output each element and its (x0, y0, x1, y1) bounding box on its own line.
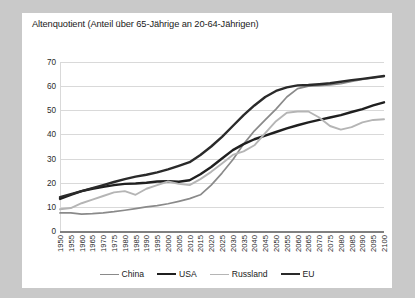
x-axis-line (60, 231, 384, 233)
x-axis-tick-label: 1985 (131, 235, 140, 252)
x-axis-tick-label: 2020 (207, 235, 216, 252)
x-axis-tick-label: 1970 (99, 235, 108, 252)
x-axis-tick-label: 1965 (88, 235, 97, 252)
y-axis-tick-label: 30 (47, 154, 56, 163)
x-axis-tick-label: 2095 (369, 235, 378, 252)
y-axis-tick-label: 10 (47, 202, 56, 211)
y-axis-tick-label: 70 (47, 58, 56, 67)
y-axis-tick-label: 40 (47, 130, 56, 139)
y-axis-tick-label: 20 (47, 178, 56, 187)
y-axis-tick-label: 50 (47, 106, 56, 115)
x-axis-tick-label: 1950 (56, 235, 65, 252)
legend-swatch (157, 273, 176, 275)
series-lines (60, 62, 384, 231)
x-axis-tick-label: 2090 (358, 235, 367, 252)
x-axis-tick-label: 2070 (315, 235, 324, 252)
x-axis-tick-label: 1980 (120, 235, 129, 252)
x-axis-tick-label: 2015 (196, 235, 205, 252)
chart-legend: ChinaUSARusslandEU (22, 269, 392, 279)
x-axis-tick-label: 2005 (174, 235, 183, 252)
x-axis-tick-label: 1955 (66, 235, 75, 252)
chart-card: Altenquotient (Anteil über 65-Jährige an… (22, 13, 392, 288)
screenshot-root: Altenquotient (Anteil über 65-Jährige an… (0, 0, 415, 298)
legend-label: Russland (232, 269, 268, 279)
legend-item-usa[interactable]: USA (157, 269, 197, 279)
legend-item-china[interactable]: China (100, 269, 144, 279)
chart-title: Altenquotient (Anteil über 65-Jährige an… (32, 19, 258, 29)
x-axis-tick-label: 1960 (77, 235, 86, 252)
series-line-eu (60, 76, 384, 197)
x-axis-tick-label: 2045 (261, 235, 270, 252)
legend-swatch (100, 274, 119, 275)
x-axis-tick-label: 2000 (164, 235, 173, 252)
legend-label: USA (179, 269, 197, 279)
plot-area: 010203040506070 195019551960196519701975… (60, 62, 384, 231)
x-axis-tick-label: 1995 (153, 235, 162, 252)
legend-swatch (281, 273, 300, 275)
series-line-russland (60, 111, 384, 209)
x-axis-tick-label: 1975 (110, 235, 119, 252)
legend-swatch (210, 274, 229, 275)
x-axis-tick-label: 2080 (336, 235, 345, 252)
legend-label: EU (303, 269, 315, 279)
x-axis-tick-label: 2010 (185, 235, 194, 252)
x-axis-tick-label: 2065 (304, 235, 313, 252)
x-axis-tick-label: 2050 (272, 235, 281, 252)
x-axis-tick-label: 2055 (282, 235, 291, 252)
x-axis-tick-label: 2035 (239, 235, 248, 252)
x-axis-tick-label: 2030 (228, 235, 237, 252)
x-axis-tick-label: 2060 (293, 235, 302, 252)
legend-label: China (122, 269, 144, 279)
x-axis-tick-label: 1990 (142, 235, 151, 252)
legend-item-eu[interactable]: EU (281, 269, 315, 279)
x-axis-tick-label: 2075 (326, 235, 335, 252)
x-axis-tick-label: 2085 (347, 235, 356, 252)
y-axis-tick-label: 60 (47, 82, 56, 91)
x-axis-tick-label: 2100 (380, 235, 389, 252)
x-axis-tick-label: 2025 (218, 235, 227, 252)
legend-item-russland[interactable]: Russland (210, 269, 268, 279)
x-axis-tick-label: 2040 (250, 235, 259, 252)
